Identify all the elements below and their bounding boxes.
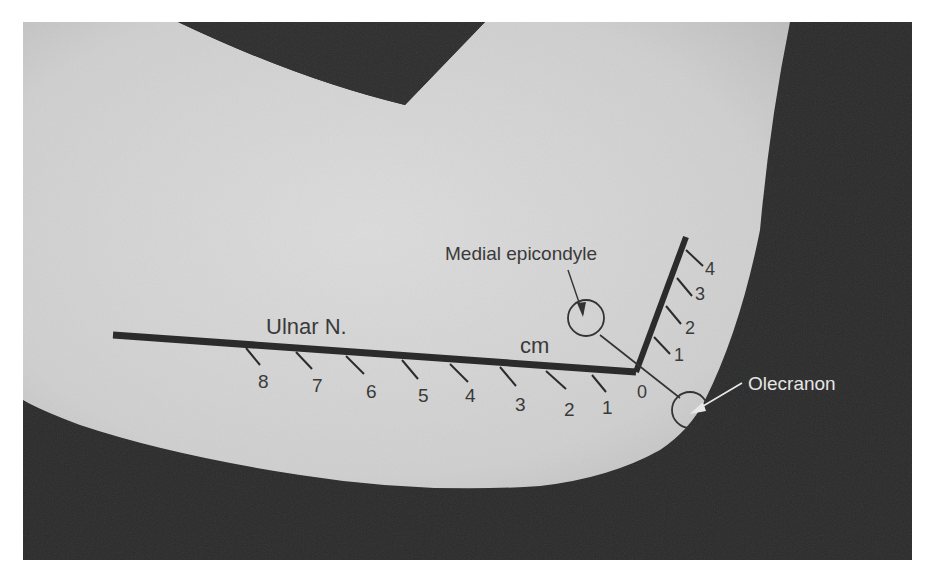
- photo: [23, 22, 912, 560]
- tick-label-p3: 3: [695, 284, 705, 304]
- tick-label-5: 5: [418, 385, 429, 406]
- elbow-diagram: 1 2 3 4 5 6 7 8 1 2 3 4 0 Medial epicond…: [0, 0, 931, 574]
- tick-label-3: 3: [515, 394, 526, 415]
- tick-label-p1: 1: [674, 345, 684, 365]
- tick-label-7: 7: [312, 375, 323, 396]
- medial-epicondyle-label: Medial epicondyle: [445, 243, 597, 264]
- ulnar-nerve-label: Ulnar N.: [266, 314, 347, 339]
- olecranon-label: Olecranon: [748, 373, 836, 394]
- tick-label-1: 1: [602, 397, 613, 418]
- origin-label: 0: [637, 382, 647, 402]
- tick-label-2: 2: [564, 399, 575, 420]
- tick-label-6: 6: [366, 381, 377, 402]
- tick-label-p4: 4: [705, 259, 715, 279]
- tick-label-8: 8: [258, 371, 269, 392]
- tick-label-4: 4: [465, 385, 476, 406]
- unit-label: cm: [520, 333, 549, 358]
- elbow-photo-illustration: 1 2 3 4 5 6 7 8 1 2 3 4 0 Medial epicond…: [0, 0, 931, 574]
- tick-label-p2: 2: [685, 318, 695, 338]
